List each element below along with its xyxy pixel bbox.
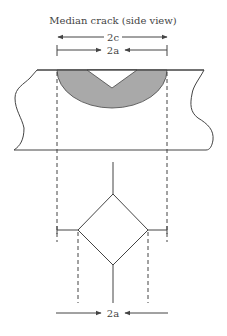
label-2a-top: 2a <box>107 45 119 56</box>
median-crack-diagram: Median crack (side view) 2c 2a 2a <box>0 0 227 336</box>
dimension-2a-bottom: 2a <box>56 308 168 319</box>
dimension-2a-top: 2a <box>57 45 167 56</box>
dimension-2c: 2c <box>58 32 167 43</box>
label-2c: 2c <box>107 32 119 43</box>
label-2a-bottom: 2a <box>107 308 119 319</box>
figure-title: Median crack (side view) <box>49 15 177 26</box>
indentation-top-view <box>57 162 167 303</box>
